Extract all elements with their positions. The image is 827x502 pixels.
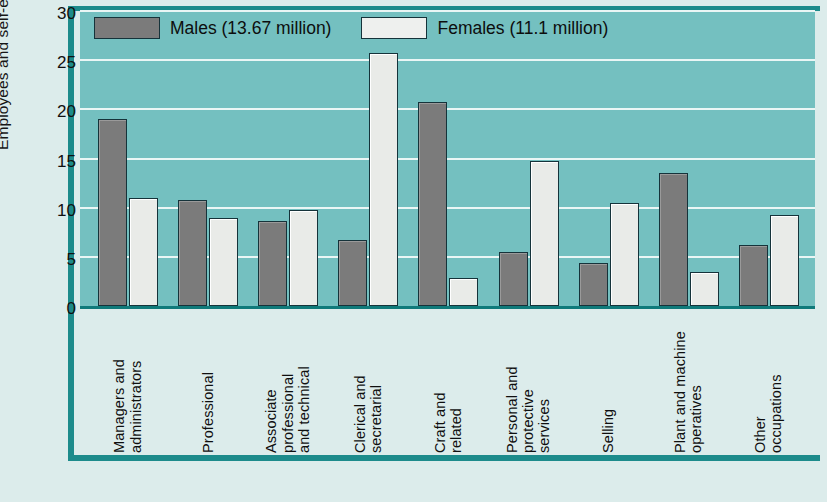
y-axis-title: Employees and self-employed (%) xyxy=(0,0,12,150)
y-tick-label-15: 15 xyxy=(30,152,76,172)
bar-male xyxy=(499,252,528,306)
bar-group xyxy=(328,11,408,306)
x-axis-label-line: Managers and xyxy=(112,313,127,453)
x-axis-label-line: and technical xyxy=(297,313,312,453)
x-axis-label-line: professional xyxy=(281,313,296,453)
x-axis-label: Selling xyxy=(569,313,649,453)
x-axis-label: Clerical andsecretarial xyxy=(328,313,408,453)
x-axis-label-line: secretarial xyxy=(369,313,384,453)
bar-group xyxy=(729,11,809,306)
bar-group xyxy=(489,11,569,306)
x-axis-label-line: Associate xyxy=(264,313,279,453)
bar-male xyxy=(659,173,688,306)
y-tick-label-25: 25 xyxy=(30,53,76,73)
bar-female xyxy=(530,161,559,306)
bar-group xyxy=(649,11,729,306)
bar-female xyxy=(289,210,318,306)
bar-female xyxy=(209,218,238,306)
bar-group xyxy=(569,11,649,306)
bar-male xyxy=(338,240,367,306)
x-axis-label-line: Personal and xyxy=(505,313,520,453)
legend-label-females: Females (11.1 million) xyxy=(437,18,608,39)
y-tick-label-10: 10 xyxy=(30,201,76,221)
x-axis-label-line: Selling xyxy=(601,313,616,453)
legend-swatch-females xyxy=(361,17,427,39)
x-axis-label-line: protective xyxy=(521,313,536,453)
bar-female xyxy=(369,53,398,306)
y-axis-ticks: 051015202530 xyxy=(26,11,76,309)
x-axis-label-line: Plant and machine xyxy=(673,313,688,453)
figure: 051015202530 Employees and self-employed… xyxy=(0,0,827,502)
bar-groups xyxy=(80,11,815,306)
x-axis-label-line: related xyxy=(449,313,464,453)
x-axis-label: Managers andadministrators xyxy=(88,313,168,453)
x-axis-label: Craft andrelated xyxy=(408,313,488,453)
legend-item-females: Females (11.1 million) xyxy=(361,17,608,39)
x-axis-label-line: occupations xyxy=(769,313,784,453)
bar-female xyxy=(610,203,639,306)
bar-female xyxy=(449,278,478,306)
x-axis-label-line: services xyxy=(537,313,552,453)
bar-male xyxy=(579,263,608,306)
bar-male xyxy=(98,119,127,306)
legend-label-males: Males (13.67 million) xyxy=(170,18,331,39)
bar-male xyxy=(178,200,207,306)
x-axis-label: Associateprofessionaland technical xyxy=(248,313,328,453)
bar-female xyxy=(770,215,799,306)
x-axis-label: Plant and machineoperatives xyxy=(649,313,729,453)
x-axis-label-line: administrators xyxy=(129,313,144,453)
x-axis-baseline xyxy=(80,306,815,309)
x-axis-labels: Managers andadministratorsProfessionalAs… xyxy=(80,313,815,453)
y-tick-label-20: 20 xyxy=(30,102,76,122)
x-axis-label: Professional xyxy=(168,313,248,453)
x-axis-label-line: Other xyxy=(753,313,768,453)
x-axis-label: Otheroccupations xyxy=(729,313,809,453)
x-axis-label: Personal andprotectiveservices xyxy=(489,313,569,453)
bar-group xyxy=(408,11,488,306)
x-axis-label-line: Professional xyxy=(201,313,216,453)
bar-female xyxy=(690,272,719,306)
bar-group xyxy=(248,11,328,306)
x-axis-label-line: operatives xyxy=(689,313,704,453)
y-tick-label-5: 5 xyxy=(30,250,76,270)
bar-group xyxy=(168,11,248,306)
plot-area: Males (13.67 million) Females (11.1 mill… xyxy=(80,11,815,309)
bar-group xyxy=(88,11,168,306)
legend: Males (13.67 million) Females (11.1 mill… xyxy=(94,17,608,39)
bar-female xyxy=(129,198,158,306)
legend-item-males: Males (13.67 million) xyxy=(94,17,331,39)
bar-male xyxy=(258,221,287,306)
bar-male xyxy=(739,245,768,306)
x-axis-label-line: Clerical and xyxy=(353,313,368,453)
x-axis-label-line: Craft and xyxy=(433,313,448,453)
bar-male xyxy=(418,102,447,306)
legend-swatch-males xyxy=(94,17,160,39)
y-tick-label-30: 30 xyxy=(30,4,76,24)
y-tick-label-0: 0 xyxy=(30,299,76,319)
